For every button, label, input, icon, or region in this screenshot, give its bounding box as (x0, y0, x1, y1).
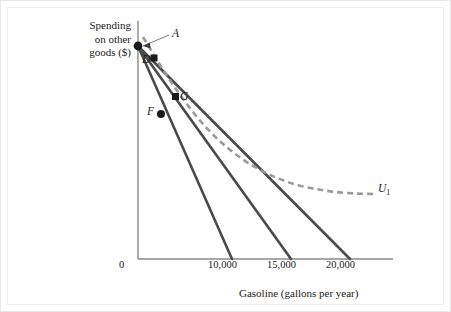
y-axis-title: Spending on other goods ($) (69, 19, 131, 60)
point-a-arrowhead (143, 43, 151, 49)
point-label-g: G (180, 90, 188, 102)
point-label-a: A (172, 27, 179, 39)
point-label-f: F (147, 105, 154, 117)
x-tick-label-10000: 10,000 (208, 259, 237, 270)
point-label-d: D (142, 53, 150, 65)
figure-container: Spending on other goods ($) Gasoline (ga… (0, 0, 451, 312)
budget-line-steep (138, 46, 232, 259)
x-tick-label-20000: 20,000 (326, 259, 355, 270)
budget-line-middle (138, 46, 291, 259)
data-point-f (157, 110, 165, 118)
y-axis-title-line-3: goods ($) (69, 46, 131, 60)
data-point-d (151, 55, 158, 62)
data-point-a (134, 42, 143, 51)
x-tick-label-15000: 15,000 (267, 259, 296, 270)
indifference-curve-u1 (143, 37, 377, 194)
x-axis-title: Gasoline (gallons per year) (239, 287, 358, 299)
curve-label-u1: U1 (378, 182, 390, 197)
curve-label-u1-subscript: 1 (386, 188, 390, 197)
budget-line-flat (138, 46, 350, 259)
y-axis-title-line-1: Spending (69, 19, 131, 33)
x-tick-label-0: 0 (119, 259, 124, 270)
y-axis-title-line-2: on other (69, 33, 131, 47)
data-point-g (172, 93, 179, 100)
